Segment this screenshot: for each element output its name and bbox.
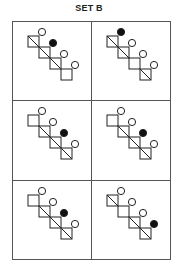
diagonal-line (129, 217, 140, 228)
figure-cell (92, 101, 170, 181)
square-shape (28, 115, 39, 126)
open-circle-icon (128, 198, 135, 205)
open-circle-icon (128, 39, 135, 46)
open-circle-icon (49, 198, 56, 205)
staircase-figure (92, 22, 170, 100)
figure-cell (13, 22, 92, 101)
diagonal-line (61, 148, 72, 159)
square-shape (129, 58, 140, 69)
open-circle-icon (71, 140, 78, 147)
open-circle-icon (71, 61, 78, 68)
figure-cell (13, 181, 92, 259)
diagonal-line (50, 58, 61, 69)
open-circle-icon (150, 61, 157, 68)
diagonal-line (140, 228, 151, 239)
filled-circle-icon (117, 28, 124, 35)
diagonal-line (39, 206, 50, 217)
staircase-figure (13, 101, 91, 180)
open-circle-icon (38, 187, 45, 194)
open-circle-icon (117, 107, 124, 114)
open-circle-icon (128, 118, 135, 125)
open-circle-icon (38, 28, 45, 35)
filled-circle-icon (150, 220, 157, 227)
open-circle-icon (60, 50, 67, 57)
square-shape (61, 69, 72, 80)
diagonal-line (140, 148, 151, 159)
figure-cell (92, 181, 170, 259)
diagonal-line (39, 126, 50, 137)
square-shape (28, 195, 39, 206)
staircase-figure (92, 101, 170, 180)
square-shape (107, 115, 118, 126)
staircase-figure (13, 181, 91, 259)
filled-circle-icon (60, 209, 67, 216)
open-circle-icon (49, 118, 56, 125)
diagonal-line (129, 137, 140, 148)
open-circle-icon (38, 107, 45, 114)
diagonal-line (140, 69, 151, 80)
diagonal-line (50, 137, 61, 148)
figure-cell (13, 101, 92, 181)
square-shape (118, 206, 129, 217)
figure-grid (12, 21, 171, 260)
open-circle-icon (71, 220, 78, 227)
open-circle-icon (139, 209, 146, 216)
open-circle-icon (117, 187, 124, 194)
filled-circle-icon (60, 129, 67, 136)
staircase-figure (13, 22, 91, 100)
diagonal-line (61, 228, 72, 239)
diagonal-line (107, 36, 118, 47)
diagonal-line (118, 126, 129, 137)
open-circle-icon (150, 140, 157, 147)
filled-circle-icon (139, 129, 146, 136)
diagonal-line (28, 36, 39, 47)
diagonal-line (107, 195, 118, 206)
diagonal-line (50, 217, 61, 228)
set-title: SET B (0, 3, 178, 13)
diagonal-line (118, 47, 129, 58)
staircase-figure (92, 181, 170, 259)
diagonal-line (39, 47, 50, 58)
filled-circle-icon (49, 39, 56, 46)
figure-cell (92, 22, 170, 101)
open-circle-icon (139, 50, 146, 57)
